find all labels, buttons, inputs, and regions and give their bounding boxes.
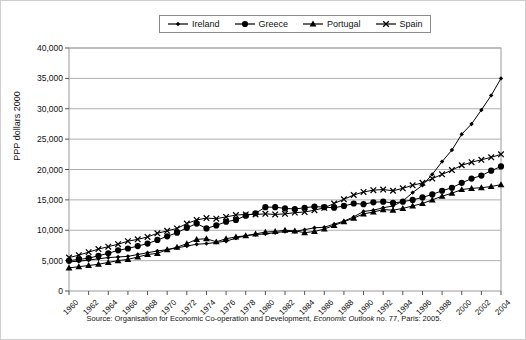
source-italic: Economic Outlook	[313, 314, 374, 323]
source-prefix: Source: Organisation for Economic Co-ope…	[87, 314, 314, 323]
chart-page: IrelandGreecePortugalSpain 05,00010,0001…	[0, 0, 526, 340]
x-axis-tick-labels: 1960196219641966196819701972197419761978…	[1, 1, 526, 340]
plot-area: 05,00010,00015,00020,00025,00030,00035,0…	[1, 1, 526, 340]
source-suffix: no. 77, Paris: 2005.	[374, 314, 441, 323]
y-axis-title: PPP dollars 2000	[12, 66, 22, 186]
source-caption: Source: Organisation for Economic Co-ope…	[1, 314, 526, 323]
